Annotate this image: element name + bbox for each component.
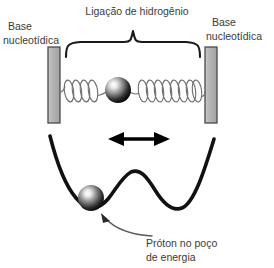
base-left-bar	[48, 47, 60, 123]
hydrogen-bond-title: Ligação de hidrogênio	[85, 5, 188, 17]
base-left-label-line2: nucleotídica	[3, 34, 59, 46]
hydrogen-bond-energy-well-diagram: Ligação de hidrogênio Base nucleotídica …	[0, 0, 274, 268]
base-left-label-line1: Base	[8, 20, 32, 32]
base-right-label-line1: Base	[212, 16, 236, 28]
proton-label-line2: de energia	[146, 251, 196, 263]
proton-label-line1: Próton no poço	[146, 237, 217, 249]
proton-sphere-in-well	[78, 185, 104, 211]
diagram-canvas: Ligação de hidrogênio Base nucleotídica …	[0, 0, 274, 268]
proton-sphere-upper	[105, 77, 131, 103]
base-right-label-line2: nucleotídica	[206, 30, 262, 42]
base-right-bar	[205, 47, 217, 123]
